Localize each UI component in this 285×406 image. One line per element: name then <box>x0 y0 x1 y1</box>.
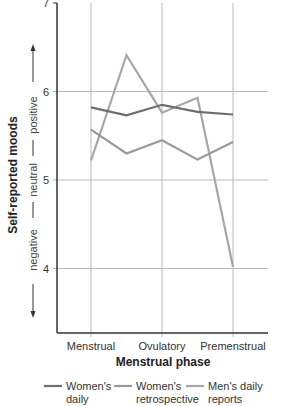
legend-label-line2: retrospective <box>136 393 199 405</box>
y-axis-title: Self-reported moods <box>6 116 20 234</box>
negative-label: negative <box>27 229 39 271</box>
x-category-label: Menstrual <box>67 340 115 352</box>
neutral-label: neutral <box>27 163 39 197</box>
legend-label-line2: reports <box>208 393 243 405</box>
y-tick-label: 7 <box>43 0 49 9</box>
axes <box>53 3 268 333</box>
legend-label-line1: Women's <box>136 380 182 392</box>
down-arrow-icon <box>31 311 36 318</box>
legend-label-line2: daily <box>66 393 89 405</box>
x-category-label: Premenstrual <box>200 340 265 352</box>
y-axis-title-group: Self-reported moods <box>6 116 20 234</box>
x-axis-title: Menstrual phase <box>116 355 211 369</box>
up-arrow-icon <box>31 44 36 51</box>
y-tick-label: 6 <box>43 86 49 98</box>
x-category-label: Ovulatory <box>138 340 186 352</box>
y-tick-label: 5 <box>43 174 49 186</box>
grid-lines <box>53 3 268 337</box>
x-category-labels: MenstrualOvulatoryPremenstrual <box>67 340 266 352</box>
legend-item: Women'sdaily <box>44 380 112 405</box>
y-tick-label: 4 <box>43 263 49 275</box>
y-tick-labels: 4567 <box>43 0 49 275</box>
legend-item: Women'sretrospective <box>114 380 199 405</box>
y-direction-scale: positive neutral negative <box>27 44 39 318</box>
line-chart: 4567 MenstrualOvulatoryPremenstrual Mens… <box>0 0 285 406</box>
positive-label: positive <box>27 96 39 133</box>
legend-label-line1: Men's daily <box>208 380 263 392</box>
legend: Women'sdailyWomen'sretrospectiveMen's da… <box>44 380 263 405</box>
legend-label-line1: Women's <box>66 380 112 392</box>
